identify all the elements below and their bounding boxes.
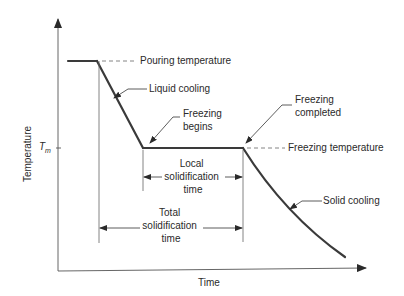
freezing-begins-leader: [150, 117, 180, 143]
liquid-cooling-segment: [97, 61, 143, 148]
x-axis-label: Time: [198, 277, 220, 288]
solid-cooling-label: Solid cooling: [323, 195, 380, 206]
solid-cooling-leader: [290, 201, 322, 209]
y-axis-label: Temperature: [22, 125, 33, 182]
freezing-completed-leader: [246, 105, 292, 143]
cooling-curve-diagram: Temperature Time Tm Pouring temperature …: [0, 0, 404, 296]
total-solidification-time-label: Total solidification time: [142, 207, 199, 244]
tm-label: Tm: [39, 141, 51, 154]
liquid-cooling-label: Liquid cooling: [149, 83, 210, 94]
local-solidification-time-label: Local solidification time: [164, 158, 221, 195]
freezing-begins-label: Freezing begins: [183, 108, 225, 132]
freezing-temperature-label: Freezing temperature: [288, 142, 384, 153]
freezing-completed-label: Freezing completed: [295, 94, 341, 118]
liquid-cooling-leader: [114, 89, 147, 98]
pouring-temperature-label: Pouring temperature: [140, 55, 232, 66]
x-axis: [58, 268, 366, 271]
reference-dashes: [102, 61, 285, 148]
